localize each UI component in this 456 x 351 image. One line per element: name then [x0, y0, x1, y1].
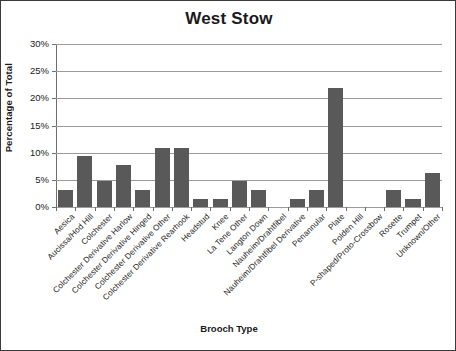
bar-slot[interactable] — [326, 44, 345, 207]
x-tick-mark — [249, 207, 250, 211]
bar[interactable] — [425, 173, 440, 207]
x-tick-mark — [423, 207, 424, 211]
bar-slot[interactable] — [307, 44, 326, 207]
x-tick-mark — [268, 207, 269, 211]
bar-slot[interactable] — [191, 44, 210, 207]
bar[interactable] — [309, 190, 324, 207]
y-tick-mark — [52, 44, 56, 45]
bar-slot[interactable] — [365, 44, 384, 207]
y-tick-label: 0% — [17, 201, 49, 212]
bar[interactable] — [97, 181, 112, 207]
x-tick-mark — [75, 207, 76, 211]
bar-slot[interactable] — [345, 44, 364, 207]
bar-slot[interactable] — [172, 44, 191, 207]
x-axis-title: Brooch Type — [1, 323, 456, 334]
x-tick-mark — [114, 207, 115, 211]
x-tick-mark — [346, 207, 347, 211]
chart-container: West Stow Percentage of Total 30%25%20%1… — [0, 0, 456, 351]
x-tick-mark — [288, 207, 289, 211]
x-tick-mark — [153, 207, 154, 211]
bar[interactable] — [116, 165, 131, 207]
x-tick-mark — [95, 207, 96, 211]
bar-slot[interactable] — [152, 44, 171, 207]
bar-slot[interactable] — [384, 44, 403, 207]
bar[interactable] — [174, 148, 189, 207]
y-axis-tick-labels: 30%25%20%15%10%5%0% — [15, 44, 49, 207]
bar-slot[interactable] — [249, 44, 268, 207]
bar-slot[interactable] — [133, 44, 152, 207]
x-tick-mark — [326, 207, 327, 211]
bar-slot[interactable] — [403, 44, 422, 207]
y-tick-mark — [52, 153, 56, 154]
x-tick-mark — [133, 207, 134, 211]
bar-slot[interactable] — [56, 44, 75, 207]
bar[interactable] — [58, 190, 73, 207]
bar-series — [56, 44, 442, 207]
bar-slot[interactable] — [95, 44, 114, 207]
bar-slot[interactable] — [114, 44, 133, 207]
x-tick-mark — [230, 207, 231, 211]
bar[interactable] — [405, 199, 420, 207]
y-tick-mark — [52, 98, 56, 99]
x-tick-mark — [365, 207, 366, 211]
y-tick-label: 10% — [17, 147, 49, 158]
chart-title: West Stow — [1, 9, 456, 29]
y-tick-label: 20% — [17, 92, 49, 103]
x-tick-mark — [442, 207, 443, 211]
bar-slot[interactable] — [288, 44, 307, 207]
bar-slot[interactable] — [230, 44, 249, 207]
y-tick-label: 5% — [17, 174, 49, 185]
y-tick-mark — [52, 71, 56, 72]
bar[interactable] — [232, 181, 247, 207]
x-tick-mark — [210, 207, 211, 211]
bar[interactable] — [386, 190, 401, 207]
bar-slot[interactable] — [75, 44, 94, 207]
bar[interactable] — [77, 156, 92, 207]
plot-area — [56, 44, 442, 207]
x-tick-mark — [403, 207, 404, 211]
y-tick-label: 25% — [17, 65, 49, 76]
bar-slot[interactable] — [268, 44, 287, 207]
bar-slot[interactable] — [210, 44, 229, 207]
bar[interactable] — [135, 190, 150, 207]
bar-slot[interactable] — [423, 44, 442, 207]
bar[interactable] — [328, 88, 343, 207]
x-tick-mark — [191, 207, 192, 211]
y-tick-label: 30% — [17, 38, 49, 49]
y-tick-mark — [52, 126, 56, 127]
bar[interactable] — [193, 199, 208, 207]
x-tick-mark — [172, 207, 173, 211]
bar[interactable] — [290, 199, 305, 207]
x-tick-mark — [384, 207, 385, 211]
y-tick-mark — [52, 180, 56, 181]
x-tick-mark — [307, 207, 308, 211]
y-tick-label: 15% — [17, 120, 49, 131]
bar[interactable] — [251, 190, 266, 207]
bar[interactable] — [155, 148, 170, 207]
x-tick-mark — [56, 207, 57, 211]
bar[interactable] — [213, 199, 228, 207]
